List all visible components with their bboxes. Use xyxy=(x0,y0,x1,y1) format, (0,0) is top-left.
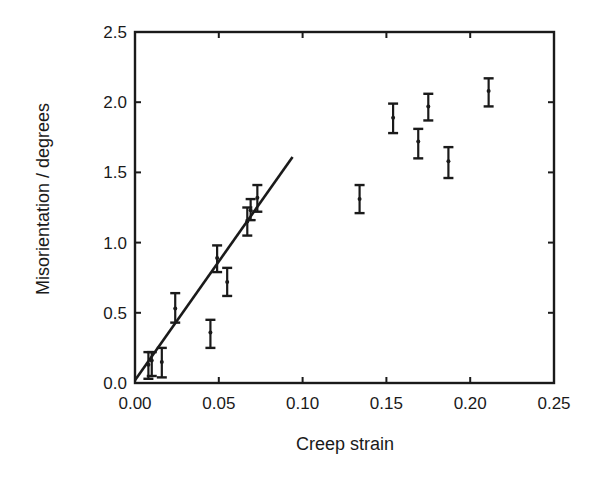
errorbar-point xyxy=(205,320,215,348)
axis-ticks xyxy=(135,32,554,383)
data-marker xyxy=(215,256,219,260)
y-axis-label: Misorientation / degrees xyxy=(33,103,53,295)
x-tick-label: 0.25 xyxy=(537,394,570,413)
errorbar-point xyxy=(355,185,365,213)
data-marker xyxy=(391,116,395,120)
y-tick-label: 1.0 xyxy=(103,234,127,253)
errorbar-point xyxy=(157,348,167,377)
data-points xyxy=(143,78,493,378)
errorbar-point xyxy=(484,78,494,106)
x-tick-label: 0.10 xyxy=(286,394,319,413)
data-marker xyxy=(249,208,253,212)
errorbar-point xyxy=(222,268,232,296)
errorbar-point xyxy=(423,94,433,121)
data-marker xyxy=(146,363,150,367)
data-marker xyxy=(487,89,491,93)
y-tick-label: 2.5 xyxy=(103,23,127,42)
data-marker xyxy=(255,196,259,200)
data-marker xyxy=(426,104,430,108)
errorbar-point xyxy=(413,129,423,158)
data-marker xyxy=(150,359,154,363)
data-marker xyxy=(160,360,164,364)
data-marker xyxy=(358,197,362,201)
y-tick-labels: 0.00.51.01.52.02.5 xyxy=(103,23,127,393)
errorbar-point xyxy=(443,147,453,178)
data-marker xyxy=(416,140,420,144)
y-tick-label: 1.5 xyxy=(103,163,127,182)
x-tick-label: 0.00 xyxy=(118,394,151,413)
data-marker xyxy=(446,159,450,163)
y-tick-label: 0.5 xyxy=(103,304,127,323)
x-tick-label: 0.20 xyxy=(454,394,487,413)
scatter-chart: 0.000.050.100.150.200.25 0.00.51.01.52.0… xyxy=(0,0,604,477)
errorbar-point xyxy=(388,104,398,133)
data-marker xyxy=(208,330,212,334)
x-tick-label: 0.15 xyxy=(370,394,403,413)
y-tick-label: 0.0 xyxy=(103,374,127,393)
plot-frame xyxy=(135,32,554,383)
x-tick-label: 0.05 xyxy=(202,394,235,413)
y-tick-label: 2.0 xyxy=(103,93,127,112)
x-tick-labels: 0.000.050.100.150.200.25 xyxy=(118,394,570,413)
data-marker xyxy=(173,307,177,311)
x-axis-label: Creep strain xyxy=(296,434,394,454)
data-marker xyxy=(225,280,229,284)
